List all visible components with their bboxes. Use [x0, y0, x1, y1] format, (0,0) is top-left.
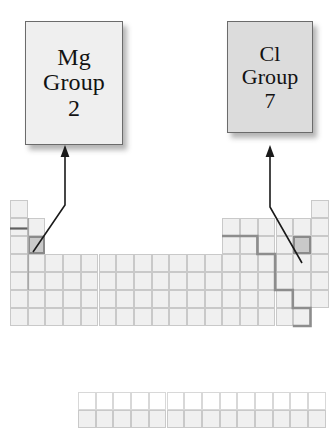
leader-arrows [0, 0, 336, 434]
arrow-to-mg-head [61, 145, 70, 157]
arrow-to-cl-head [266, 145, 275, 157]
figure-canvas: Mg Group 2 Cl Group 7 [0, 0, 336, 434]
arrow-to-cl-line [270, 154, 302, 263]
arrow-to-mg-line [33, 154, 65, 252]
